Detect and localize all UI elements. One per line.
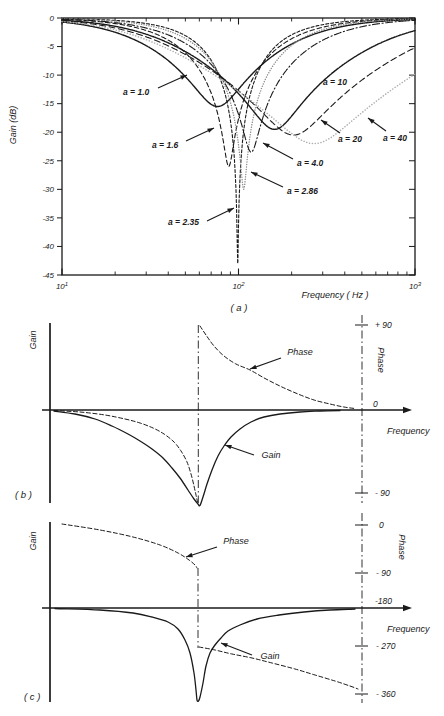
phase-tick-label: - 90 bbox=[375, 488, 390, 498]
figure-page: 0-5-10-15-20-25-30-35-40-45101102103Freq… bbox=[0, 0, 444, 716]
phase-tick-label: - 90 bbox=[376, 568, 391, 578]
phase-tick-label: 0 bbox=[373, 399, 378, 409]
y-tick-label: -30 bbox=[42, 185, 54, 194]
curve-a=2.35 bbox=[62, 19, 415, 264]
curve-label: a = 1.0 bbox=[123, 87, 150, 97]
panel-c-tag: ( c ) bbox=[24, 691, 40, 702]
curve-label-arrow-head bbox=[207, 128, 214, 133]
curve-label: a = 40 bbox=[383, 133, 407, 143]
phase-tick-label: -180 bbox=[375, 596, 392, 606]
gain-annotation-arrow-head bbox=[221, 643, 228, 648]
curve-label: a = 1.6 bbox=[152, 140, 179, 150]
y-tick-label: 0 bbox=[50, 14, 55, 23]
curve-label: a = 20 bbox=[338, 134, 362, 144]
panel-a-tag: ( a ) bbox=[231, 302, 248, 313]
x-tick-exp: 3 bbox=[418, 281, 422, 287]
curve-a=4.0 bbox=[62, 19, 415, 152]
curve-label: a = 10 bbox=[323, 77, 347, 87]
x-tick-exp: 1 bbox=[65, 281, 68, 287]
panel-b: + 900- 90GainPhaseFrequency( b )PhaseGai… bbox=[15, 315, 430, 506]
panel-b-tag: ( b ) bbox=[15, 489, 32, 500]
phase-tick-label: - 270 bbox=[376, 641, 396, 651]
y-tick-label: -5 bbox=[47, 42, 55, 51]
x-tick-label: 103 bbox=[409, 281, 422, 292]
gain-annotation: Gain bbox=[260, 651, 279, 661]
phase-tick-label: 0 bbox=[379, 520, 384, 530]
gain-curve bbox=[55, 609, 355, 702]
gain-curve bbox=[54, 411, 340, 506]
phase-annotation: Phase bbox=[223, 536, 249, 546]
phase-axis-label: Phase bbox=[376, 347, 386, 373]
x-tick-label: 101 bbox=[56, 281, 68, 292]
phase-annotation-arrow-head bbox=[186, 553, 193, 557]
y-tick-label: -45 bbox=[42, 271, 54, 280]
y-tick-label: -40 bbox=[42, 242, 54, 251]
curve-label-arrow-head bbox=[251, 172, 258, 177]
phase-annotation-arrow-head bbox=[250, 365, 257, 369]
curve-label: a = 2.35 bbox=[168, 217, 199, 227]
curve-a=40 bbox=[62, 22, 415, 144]
phase-tick-label: - 360 bbox=[376, 689, 396, 699]
curve-label-arrow-head bbox=[227, 208, 234, 213]
phase-axis-label: Phase bbox=[397, 534, 407, 560]
curve-label-arrow-head bbox=[368, 118, 375, 124]
phase-curve bbox=[54, 411, 198, 503]
x-tick-label: 102 bbox=[232, 281, 245, 292]
phase-annotation: Phase bbox=[287, 347, 313, 357]
y-tick-label: -25 bbox=[42, 157, 54, 166]
figure-canvas: 0-5-10-15-20-25-30-35-40-45101102103Freq… bbox=[0, 0, 444, 716]
gain-axis-label: Gain bbox=[28, 531, 38, 550]
frequency-axis-arrowhead bbox=[403, 407, 412, 413]
x-tick-exp: 2 bbox=[240, 281, 245, 287]
curve-a=2.86 bbox=[62, 19, 415, 190]
y-tick-label: -35 bbox=[42, 214, 54, 223]
gain-annotation-arrow-head bbox=[225, 445, 232, 449]
frequency-axis-label: Frequency bbox=[387, 426, 430, 436]
phase-tick-label: + 90 bbox=[375, 320, 392, 330]
x-axis-label: Frequency ( Hz ) bbox=[301, 290, 368, 300]
panel-c: 0- 90-180- 270- 360GainPhaseFrequency( c… bbox=[24, 513, 430, 703]
curve-a=20 bbox=[62, 21, 415, 135]
gain-annotation: Gain bbox=[261, 450, 280, 460]
curve-label-arrow-head bbox=[263, 143, 270, 148]
phase-curve bbox=[200, 326, 355, 409]
frequency-axis-label: Frequency bbox=[387, 624, 430, 634]
curve-label-arrow-head bbox=[321, 120, 328, 126]
y-tick-label: -15 bbox=[42, 99, 54, 108]
panel-a: 0-5-10-15-20-25-30-35-40-45101102103Freq… bbox=[8, 14, 422, 313]
y-axis-label: Gain (dB) bbox=[8, 106, 18, 145]
curve-label: a = 4.0 bbox=[297, 158, 324, 168]
y-tick-label: -20 bbox=[42, 128, 54, 137]
y-tick-label: -10 bbox=[42, 71, 54, 80]
phase-curve bbox=[62, 524, 197, 568]
curve-label: a = 2.86 bbox=[287, 186, 318, 196]
gain-axis-label: Gain bbox=[28, 330, 38, 349]
frequency-axis-arrowhead bbox=[403, 605, 412, 611]
